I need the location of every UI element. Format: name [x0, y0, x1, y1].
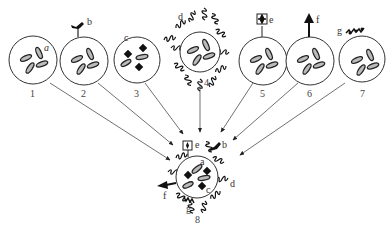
label-a-combined: a: [200, 156, 205, 167]
cell-number-1: 1: [30, 88, 35, 99]
cell-number-4: 4: [204, 77, 209, 88]
label-c-combined: c: [206, 184, 211, 195]
label-b: b: [87, 16, 92, 27]
cell-number-8: 8: [195, 214, 200, 225]
cell-6: f 6: [286, 13, 334, 99]
spiky-cluster-g-icon: [346, 28, 364, 35]
cell-number-5: 5: [260, 88, 265, 99]
cell-2: b 2: [60, 16, 108, 99]
cell-number-6: 6: [307, 88, 312, 99]
arrow-5: [221, 83, 253, 132]
arrow-appendage-f-icon: [304, 13, 314, 37]
cell-1: a 1: [9, 36, 57, 99]
combination-diagram: a 1 b 2 c 3: [0, 0, 386, 235]
label-d: d: [178, 11, 183, 22]
label-g: g: [337, 25, 342, 36]
cell-7: g 7: [337, 25, 385, 99]
cell-5: e 5: [239, 14, 287, 99]
receptor-b-icon: [71, 22, 84, 37]
label-c: c: [124, 32, 129, 43]
label-f: f: [316, 14, 320, 25]
arrow-7: [240, 83, 345, 155]
cell-4: d 4: [163, 8, 229, 91]
cell-number-2: 2: [81, 88, 86, 99]
label-e-combined: e: [195, 139, 200, 150]
cell-8-combined: e b f g a c d 8: [157, 139, 235, 225]
label-b-combined: b: [222, 139, 227, 150]
label-e: e: [269, 14, 274, 25]
label-f-combined: f: [163, 190, 167, 201]
cell-number-3: 3: [134, 88, 139, 99]
label-g-combined: g: [186, 203, 191, 214]
receptor-e-icon: [257, 14, 267, 37]
arrow-1: [50, 83, 170, 160]
label-d-combined: d: [230, 178, 235, 189]
arrow-6: [233, 83, 298, 140]
cell-3: c 3: [114, 32, 160, 99]
label-a: a: [44, 42, 49, 53]
cell-number-7: 7: [360, 88, 365, 99]
